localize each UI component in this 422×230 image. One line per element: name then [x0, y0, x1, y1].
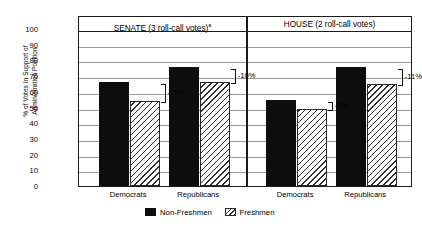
legend-swatch-non-freshmen [145, 208, 156, 216]
bar-freshmen [367, 84, 397, 186]
y-tick-60: 60 [14, 89, 38, 97]
gridline-90 [79, 47, 411, 48]
legend-label-freshmen: Freshmen [239, 208, 274, 217]
plot-area: SENATE (3 roll-call votes)a HOUSE (2 rol… [78, 16, 412, 187]
y-tick-0: 0 [14, 183, 38, 191]
panel-title-senate-text: SENATE (3 roll-call votes) [114, 24, 208, 33]
delta-bracket [231, 69, 236, 85]
panel-title-senate-footnote: a [208, 22, 211, 28]
legend-item-non-freshmen: Non-Freshmen [145, 208, 212, 217]
delta-bracket [161, 84, 166, 103]
bar-freshmen [297, 109, 327, 186]
delta-label: -10% [238, 72, 256, 80]
y-tick-90: 90 [14, 42, 38, 50]
bar-freshmen [130, 101, 160, 186]
delta-label: -11% [405, 73, 422, 81]
x-label-republicans: Republicans [325, 189, 405, 201]
delta-bracket [328, 102, 333, 111]
y-tick-30: 30 [14, 136, 38, 144]
y-tick-100: 100 [14, 26, 38, 34]
bar-non-freshmen [169, 67, 199, 186]
y-tick-70: 70 [14, 73, 38, 81]
panel-divider [246, 17, 248, 186]
legend-swatch-freshmen [225, 208, 236, 216]
delta-label: -12% [168, 89, 186, 97]
panel-title-house: HOUSE (2 roll-call votes) [246, 18, 413, 32]
y-tick-20: 20 [14, 152, 38, 160]
legend-label-non-freshmen: Non-Freshmen [160, 208, 212, 217]
y-tick-50: 50 [14, 105, 38, 113]
delta-bracket [398, 69, 403, 86]
panel-title-senate: SENATE (3 roll-call votes)a [79, 18, 246, 32]
bar-non-freshmen [266, 100, 296, 186]
y-tick-40: 40 [14, 120, 38, 128]
legend-item-freshmen: Freshmen [225, 208, 275, 217]
bar-non-freshmen [336, 67, 366, 186]
y-tick-80: 80 [14, 57, 38, 65]
delta-label: -6% [335, 102, 349, 110]
panel-title-house-text: HOUSE (2 roll-call votes) [284, 20, 375, 29]
x-label-democrats: Democrats [255, 189, 335, 201]
gridline-80 [79, 62, 411, 63]
x-label-democrats: Democrats [88, 189, 168, 201]
chart-legend: Non-Freshmen Freshmen [0, 205, 420, 219]
y-tick-10: 10 [14, 167, 38, 175]
bar-non-freshmen [99, 82, 129, 186]
bar-freshmen [200, 82, 230, 186]
x-label-republicans: Republicans [158, 189, 238, 201]
